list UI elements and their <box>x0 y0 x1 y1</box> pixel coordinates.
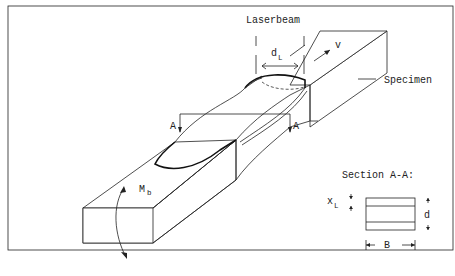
section-cut-line <box>178 114 292 133</box>
bending-moment-subscript: b <box>147 189 152 197</box>
bending-moment-label: M <box>139 184 145 195</box>
section-detail: Section A-A: <box>342 170 430 250</box>
laser-depth-subscript: L <box>334 202 339 210</box>
thickness-label: d <box>424 210 430 221</box>
section-rectangle <box>366 198 415 230</box>
section-a-left-label: A <box>170 121 176 132</box>
specimen-label: Specimen <box>384 75 432 86</box>
section-a-right-label: A <box>293 121 299 132</box>
section-title: Section A-A: <box>342 170 414 181</box>
laserbeam-label: Laserbeam <box>246 15 300 26</box>
beam-diameter-label: d <box>271 48 277 59</box>
laser-depth-label: x <box>327 196 333 207</box>
specimen-diagram: Laserbeam d L v Specimen A A M b Section… <box>0 0 455 276</box>
beam-diameter-subscript: L <box>278 54 283 62</box>
width-label: B <box>384 240 390 251</box>
velocity-label: v <box>335 40 341 51</box>
